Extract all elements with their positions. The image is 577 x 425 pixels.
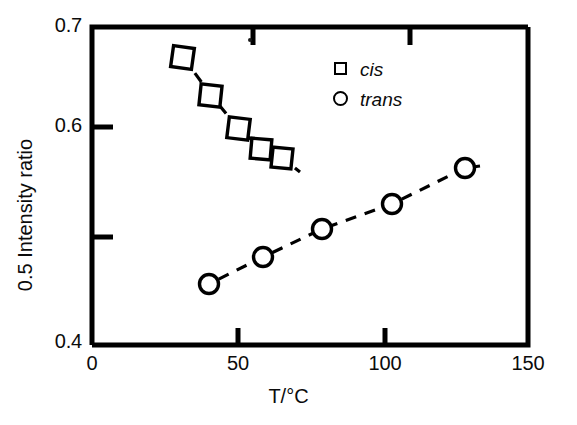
x-tick-label-100: 100 — [357, 352, 413, 375]
x-tick-label-0: 0 — [72, 352, 112, 375]
x-tick-label-50: 50 — [214, 352, 262, 375]
legend-entry-trans: trans — [330, 85, 480, 115]
trans-markers — [200, 159, 475, 294]
legend-label-cis: cis — [356, 59, 383, 81]
cis-markers — [171, 46, 293, 169]
y-axis-title: 0.5 Intensity ratio — [10, 100, 40, 330]
x-axis-title: T/°C — [0, 385, 577, 408]
x-tick-label-150: 150 — [500, 352, 556, 375]
series-trans — [200, 159, 481, 294]
scan-speck-artifact — [248, 38, 252, 42]
circle-marker-icon — [330, 89, 356, 111]
y-tick-label-0-4: 0.4 — [18, 330, 82, 353]
y-tick-label-0-7: 0.7 — [18, 14, 82, 37]
legend-entry-cis: cis — [330, 55, 480, 85]
y-axis-ticks — [92, 127, 113, 237]
legend-label-trans: trans — [356, 89, 402, 111]
series-cis — [171, 46, 300, 172]
chart-figure: 0.7 0.6 0.4 0.5 Intensity ratio 0 50 100… — [0, 0, 577, 425]
square-marker-icon — [330, 59, 356, 81]
legend: cis trans — [330, 55, 480, 115]
